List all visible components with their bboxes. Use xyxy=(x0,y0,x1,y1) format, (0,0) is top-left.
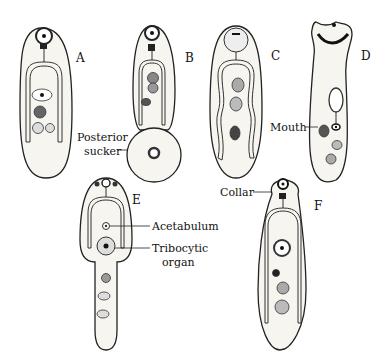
mouth-label: Mouth xyxy=(270,121,306,134)
trematode-body-plans-figure: Posterior sucker Mouth xyxy=(0,0,384,361)
specimen-d xyxy=(309,22,352,182)
panel-b-letter: B xyxy=(185,51,194,65)
panel-f-letter: F xyxy=(314,199,322,213)
specimen-b xyxy=(127,26,181,182)
panel-d-letter: D xyxy=(361,49,371,63)
specimen-e xyxy=(80,178,132,350)
acetabulum-label: Acetabulum xyxy=(151,220,219,233)
specimen-c xyxy=(210,26,262,178)
posterior-sucker-label-1: Posterior xyxy=(77,131,129,144)
specimen-f xyxy=(258,179,306,350)
posterior-sucker-label-2: sucker xyxy=(84,145,122,158)
panel-a-letter: A xyxy=(75,51,85,65)
tribocytic-label-2: organ xyxy=(162,256,195,269)
collar-label: Collar xyxy=(220,186,255,199)
panel-e-letter: E xyxy=(132,193,141,207)
tribocytic-label-1: Tribocytic xyxy=(152,242,208,255)
panel-c-letter: C xyxy=(271,49,280,63)
specimen-a xyxy=(20,28,72,178)
